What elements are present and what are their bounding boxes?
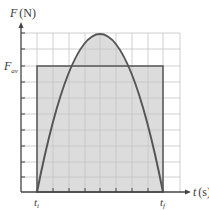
t-f-label: tf: [160, 196, 166, 210]
impulse-force-diagram: F(N) Fav ti tf t(s): [0, 0, 209, 210]
t-i-label: ti: [34, 196, 39, 210]
y-axis-label: F(N): [9, 6, 36, 20]
x-axis-label: t(s): [193, 185, 209, 199]
x-axis-arrow-icon: [185, 190, 191, 195]
y-axis-arrow-icon: [19, 22, 24, 28]
f-av-label: Fav: [3, 59, 19, 75]
